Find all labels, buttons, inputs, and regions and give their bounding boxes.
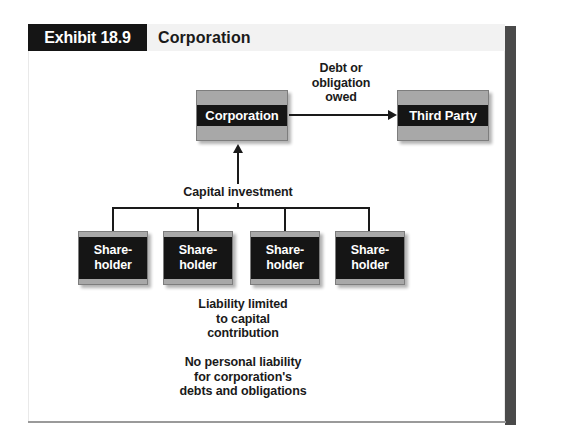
node-shareholder-3: Share- holder xyxy=(250,231,320,285)
node-corporation: Corporation xyxy=(196,90,288,141)
label-liability-limited: Liability limited to capital contributio… xyxy=(143,297,343,341)
node-shareholder-4: Share- holder xyxy=(335,231,405,285)
node-shareholder-3-line-2: holder xyxy=(266,258,304,273)
exhibit-number-tag: Exhibit 18.9 xyxy=(28,24,147,51)
label-liability-line-1: Liability limited xyxy=(143,297,343,312)
connector-drop-shareholder-3 xyxy=(284,207,286,231)
label-no-liability-line-1: No personal liability xyxy=(143,355,343,370)
node-shareholder-2-label: Share- holder xyxy=(164,237,232,279)
connector-capital-investment-riser xyxy=(237,152,239,184)
node-shareholder-2: Share- holder xyxy=(163,231,233,285)
label-no-liability-line-2: for corporation's xyxy=(143,370,343,385)
arrowhead-to-third-party xyxy=(388,110,397,120)
label-no-liability-line-3: debts and obligations xyxy=(143,384,343,399)
label-capital-investment: Capital investment xyxy=(158,185,318,200)
node-shareholder-4-label: Share- holder xyxy=(336,237,404,279)
label-liability-line-2: to capital xyxy=(143,312,343,327)
connector-shareholder-bus xyxy=(112,207,369,209)
connector-drop-shareholder-1 xyxy=(112,207,114,231)
label-debt-line-2: obligation xyxy=(290,76,392,91)
arrowhead-capital-investment xyxy=(233,144,243,153)
node-shareholder-3-label: Share- holder xyxy=(251,237,319,279)
node-third-party-label: Third Party xyxy=(398,105,488,126)
node-shareholder-3-line-1: Share- xyxy=(266,243,304,258)
label-capital-investment-text: Capital investment xyxy=(158,185,318,200)
label-debt-line-1: Debt or xyxy=(290,61,392,76)
node-shareholder-2-line-2: holder xyxy=(179,258,217,273)
connector-corporation-to-third-party xyxy=(289,114,390,116)
node-third-party: Third Party xyxy=(397,90,489,141)
frame-bottom-rule xyxy=(28,421,506,423)
label-liability-line-3: contribution xyxy=(143,326,343,341)
label-no-personal-liability: No personal liability for corporation's … xyxy=(143,355,343,399)
connector-drop-shareholder-4 xyxy=(368,207,370,231)
label-debt-line-3: owed xyxy=(290,90,392,105)
exhibit-page: Exhibit 18.9 Corporation Corporation Thi… xyxy=(0,0,561,445)
frame-right-accent-bar xyxy=(505,26,516,425)
label-debt-obligation-owed: Debt or obligation owed xyxy=(290,61,392,105)
connector-drop-shareholder-2 xyxy=(197,207,199,231)
node-shareholder-4-line-1: Share- xyxy=(351,243,389,258)
node-shareholder-1-label: Share- holder xyxy=(79,237,147,279)
node-shareholder-1: Share- holder xyxy=(78,231,148,285)
node-shareholder-2-line-1: Share- xyxy=(179,243,217,258)
node-shareholder-4-line-2: holder xyxy=(351,258,389,273)
exhibit-title: Corporation xyxy=(158,24,251,51)
node-corporation-label: Corporation xyxy=(197,105,287,126)
node-shareholder-1-line-1: Share- xyxy=(94,243,132,258)
node-shareholder-1-line-2: holder xyxy=(94,258,132,273)
